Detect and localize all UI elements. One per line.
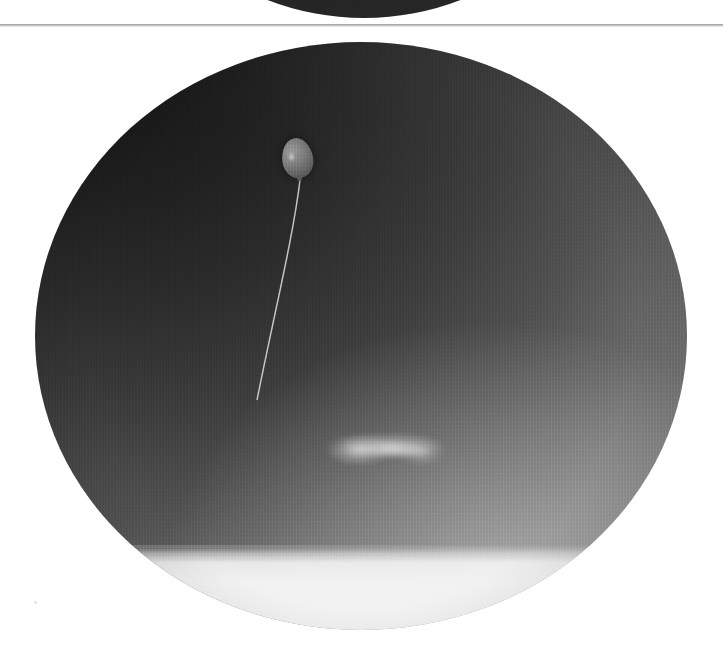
frame-divider-rule-shadow bbox=[0, 26, 723, 27]
frame-gutter bbox=[0, 18, 723, 44]
background-speck bbox=[34, 601, 37, 604]
image-viewer-stage bbox=[0, 0, 723, 653]
lens-vignette bbox=[35, 42, 687, 630]
previous-sky-frame[interactable] bbox=[108, 0, 620, 18]
current-sky-frame[interactable] bbox=[35, 42, 687, 630]
sensor-noise-texture bbox=[108, 0, 620, 18]
